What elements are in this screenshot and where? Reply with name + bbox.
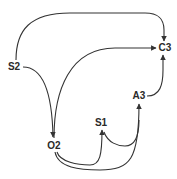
node-s2: S2 <box>8 62 20 72</box>
graph-edges <box>0 0 177 179</box>
node-c3: C3 <box>159 43 172 53</box>
edge-s2-o2 <box>23 67 53 137</box>
node-a3: A3 <box>133 91 146 101</box>
edge-o2-a3 <box>55 104 139 170</box>
node-o2: O2 <box>47 141 60 151</box>
directed-graph-diagram: S2 C3 O2 S1 A3 <box>0 0 177 179</box>
node-s1: S1 <box>95 118 107 128</box>
edge-o2-s1 <box>57 130 102 165</box>
edge-a3-c3 <box>147 55 163 96</box>
edge-s1-a3 <box>104 120 139 146</box>
